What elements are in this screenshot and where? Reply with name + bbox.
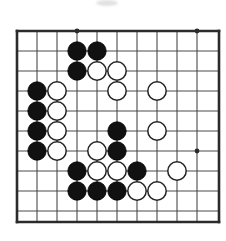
stone-black-c2r5[interactable] bbox=[28, 102, 46, 120]
star-point-2 bbox=[195, 29, 200, 34]
stone-black-c4r2[interactable] bbox=[68, 42, 86, 60]
stone-black-c4r8[interactable] bbox=[68, 162, 86, 180]
star-point-3 bbox=[195, 149, 200, 154]
go-board-diagram bbox=[0, 0, 226, 241]
stone-white-c8r9[interactable] bbox=[148, 182, 166, 200]
stone-white-c8r4[interactable] bbox=[148, 82, 166, 100]
stone-black-c6r7[interactable] bbox=[108, 142, 126, 160]
go-board[interactable] bbox=[0, 0, 226, 241]
stone-white-c3r7[interactable] bbox=[48, 142, 66, 160]
stone-black-c5r9[interactable] bbox=[88, 182, 106, 200]
stone-black-c6r6[interactable] bbox=[108, 122, 126, 140]
stone-black-c7r8[interactable] bbox=[128, 162, 146, 180]
stone-white-c3r5[interactable] bbox=[48, 102, 66, 120]
stone-white-c5r8[interactable] bbox=[88, 162, 106, 180]
star-point-1 bbox=[75, 29, 80, 34]
stone-black-c4r9[interactable] bbox=[68, 182, 86, 200]
stone-white-c6r8[interactable] bbox=[108, 162, 126, 180]
stone-white-c5r3[interactable] bbox=[88, 62, 106, 80]
stone-black-c2r4[interactable] bbox=[28, 82, 46, 100]
stone-white-c8r6[interactable] bbox=[148, 122, 166, 140]
stone-white-c3r6[interactable] bbox=[48, 122, 66, 140]
stone-white-c9r8[interactable] bbox=[168, 162, 186, 180]
stone-white-c6r3[interactable] bbox=[108, 62, 126, 80]
stone-black-c6r9[interactable] bbox=[108, 182, 126, 200]
stone-black-c2r6[interactable] bbox=[28, 122, 46, 140]
stones[interactable] bbox=[28, 42, 186, 200]
stone-white-c5r7[interactable] bbox=[88, 142, 106, 160]
stone-black-c2r7[interactable] bbox=[28, 142, 46, 160]
stone-white-c7r9[interactable] bbox=[128, 182, 146, 200]
stone-black-c4r3[interactable] bbox=[68, 62, 86, 80]
stone-black-c5r2[interactable] bbox=[88, 42, 106, 60]
stone-white-c6r4[interactable] bbox=[108, 82, 126, 100]
stone-white-c3r4[interactable] bbox=[48, 82, 66, 100]
